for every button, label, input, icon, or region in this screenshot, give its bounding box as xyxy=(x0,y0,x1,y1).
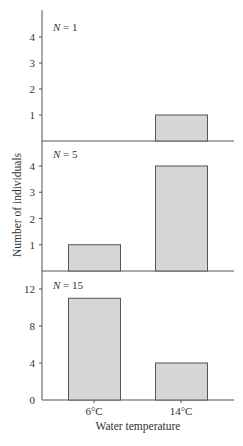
bar-14c xyxy=(156,363,208,400)
panel-1: 1234N = 1 xyxy=(30,21,235,141)
panel-2: 1234N = 5 xyxy=(30,148,235,271)
chart: Number of individuals 1234N = 11234N = 5… xyxy=(0,0,243,446)
y-tick-label: 4 xyxy=(30,160,36,172)
sample-size-label: N = 1 xyxy=(52,21,78,33)
bar-14c xyxy=(156,115,208,141)
sample-size-label: N = 15 xyxy=(52,279,84,291)
y-tick-label: 3 xyxy=(30,57,36,69)
panels: 1234N = 11234N = 504812N = 15 xyxy=(24,21,234,406)
bar-14c xyxy=(156,166,208,271)
bar-6c xyxy=(69,298,121,400)
x-axis-title: Water temperature xyxy=(96,420,181,433)
y-tick-label: 0 xyxy=(30,394,36,406)
x-tick-label-14c: 14°C xyxy=(170,405,193,417)
bar-6c xyxy=(69,245,121,271)
y-tick-label: 1 xyxy=(30,109,36,121)
y-tick-label: 1 xyxy=(30,239,36,251)
sample-size-label: N = 5 xyxy=(52,148,78,160)
y-tick-label: 4 xyxy=(30,31,36,43)
y-tick-label: 2 xyxy=(30,213,36,225)
panel-3: 04812N = 15 xyxy=(24,279,234,406)
y-axis-title: Number of individuals xyxy=(11,152,23,257)
x-tick-label-6c: 6°C xyxy=(85,405,102,417)
y-tick-label: 3 xyxy=(30,186,36,198)
y-tick-label: 12 xyxy=(24,283,35,295)
y-tick-label: 8 xyxy=(30,320,36,332)
y-tick-label: 2 xyxy=(30,83,36,95)
y-tick-label: 4 xyxy=(30,357,36,369)
